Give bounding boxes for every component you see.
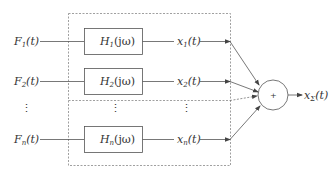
plus-symbol: + [270,91,277,100]
channel-row-n: Fn(t) Hn(jω) xn(t) [13,127,230,153]
filter-label-2: H2(jω) [99,75,135,89]
output-label-n: xn(t) [177,133,201,147]
sum-arrow-2 [230,82,258,93]
ellipsis-inputs: ⋮ [21,102,32,115]
input-label-1: F1(t) [13,35,39,49]
sum-arrow-dashed [230,96,257,101]
sum-arrow-n [230,106,260,140]
filter-label-n: Hn(jω) [99,133,135,147]
channel-row-1: F1(t) H1(jω) x1(t) [13,29,230,55]
output-label-1: x1(t) [177,35,201,49]
ellipsis-filters: ⋮ [110,102,121,115]
input-label-n: Fn(t) [13,133,39,147]
output-label-2: x2(t) [177,75,201,89]
ellipsis-outputs: ⋮ [181,102,192,115]
channel-row-2: F2(t) H2(jω) x2(t) [13,69,230,95]
filter-label-1: H1(jω) [99,35,135,49]
sum-arrow-1 [230,42,259,86]
input-label-2: F2(t) [13,75,39,89]
block-diagram: F1(t) H1(jω) x1(t) F2(t) H2(jω) x2(t) ⋮ … [0,0,332,176]
result-label: xΣ(t) [304,89,328,103]
